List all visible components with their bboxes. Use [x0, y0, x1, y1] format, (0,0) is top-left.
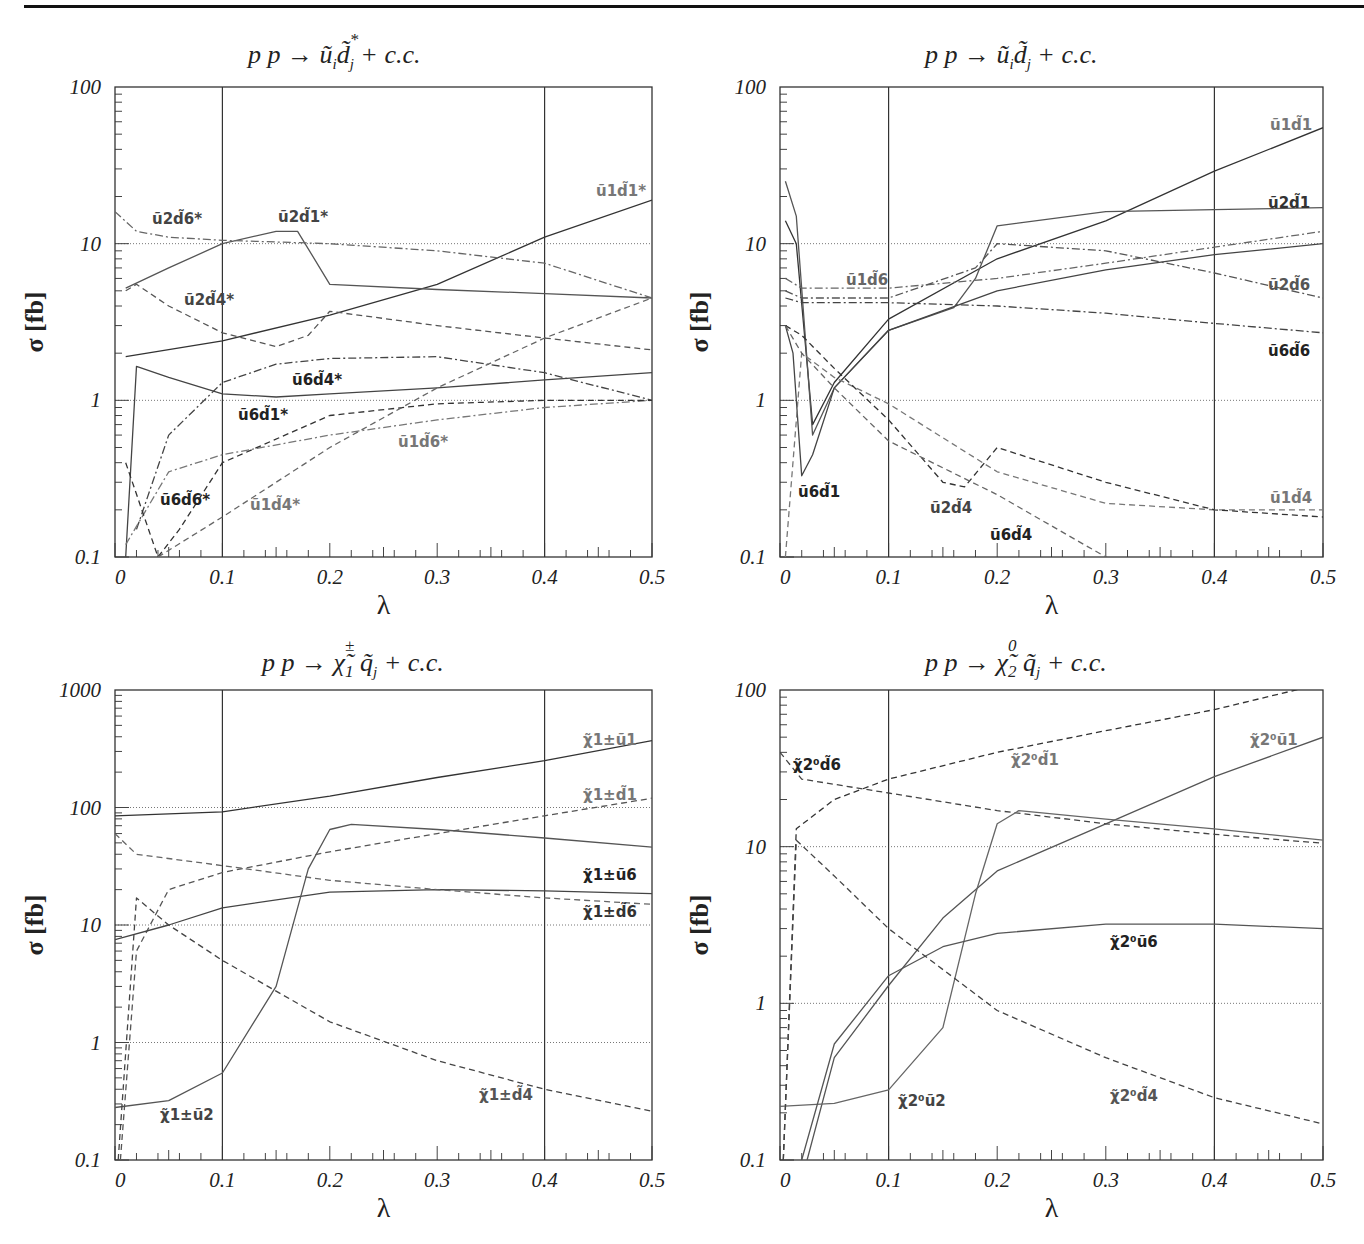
curve-label: ũ1d̃1 [1270, 115, 1312, 134]
curve-label: ũ1d̃4 [1270, 488, 1312, 507]
y-tick-label: 10 [80, 232, 102, 256]
x-tick-label: 0.2 [317, 565, 344, 589]
y-axis-label: σ [fb] [685, 291, 714, 352]
x-tick-label: 0.1 [875, 1168, 901, 1192]
series-line [126, 400, 652, 544]
x-tick-label: 0.4 [1201, 1168, 1228, 1192]
chart-canvas: 00.10.20.30.40.50.1110100λσ [fb]ũ2d̃6*ũ2… [0, 0, 1364, 1244]
curve-label: ũ1d̃1* [596, 181, 646, 200]
x-tick-label: 0 [780, 565, 791, 589]
curve-label: χ̃1±d̃4 [479, 1085, 533, 1104]
curve-label: ũ1d̃6* [398, 432, 448, 451]
curve-label: χ̃2⁰d̃6 [793, 755, 841, 774]
x-tick-label: 0.2 [317, 1168, 344, 1192]
curve-label: ũ2d̃1 [1268, 193, 1310, 212]
curve-label: ũ6d̃1* [238, 405, 288, 424]
y-tick-label: 1 [756, 991, 767, 1015]
curve-label: ũ2d̃6* [152, 209, 202, 228]
curve-label: χ̃2⁰ũ1 [1250, 731, 1298, 749]
curve-label: χ̃1±ũ6 [583, 866, 637, 884]
curve-label: ũ6d̃6* [160, 490, 210, 509]
curve-label: χ̃1±d̃1 [583, 785, 637, 804]
x-tick-label: 0.5 [639, 565, 665, 589]
x-tick-label: 0.1 [209, 1168, 235, 1192]
x-tick-label: 0.4 [531, 1168, 558, 1192]
y-tick-label: 100 [70, 75, 102, 99]
curve-label: χ̃1±d̃6 [583, 902, 637, 921]
series-line [126, 200, 652, 357]
y-tick-label: 0.1 [75, 545, 101, 569]
x-tick-label: 0.5 [1310, 1168, 1336, 1192]
x-tick-label: 0.4 [1201, 565, 1228, 589]
x-axis-label: λ [377, 589, 391, 620]
x-tick-label: 0.5 [639, 1168, 665, 1192]
chart-panel-tl: 00.10.20.30.40.50.1110100λσ [fb]ũ2d̃6*ũ2… [20, 75, 665, 620]
y-tick-label: 1 [91, 1031, 102, 1055]
y-tick-label: 1000 [59, 678, 102, 702]
y-tick-label: 1 [756, 388, 767, 412]
series-line [126, 400, 652, 557]
series-line [126, 231, 652, 298]
curve-label: ũ2d̃4* [184, 290, 234, 309]
y-tick-label: 10 [745, 835, 767, 859]
y-tick-label: 100 [735, 75, 767, 99]
series-line [785, 353, 1323, 557]
x-axis-label: λ [1045, 1192, 1059, 1223]
curve-label: χ̃1±ũ2 [160, 1106, 214, 1124]
y-tick-label: 0.1 [75, 1148, 101, 1172]
curve-label: ũ1d̃6 [846, 270, 888, 289]
curve-label: ũ6d̃4 [990, 525, 1032, 544]
x-tick-label: 0.1 [875, 565, 901, 589]
x-axis-label: λ [1045, 589, 1059, 620]
curve-label: ũ6d̃4* [292, 370, 342, 389]
chart-panel-bl: 00.10.20.30.40.50.11101001000λσ [fb]χ̃1±… [20, 678, 665, 1223]
curve-label: χ̃2⁰d̃1 [1011, 750, 1059, 769]
curve-label: ũ1d̃4* [250, 495, 300, 514]
curve-label: χ̃1±ũ1 [583, 731, 637, 749]
series-line [807, 737, 1323, 1160]
curve-label: ũ2d̃1* [278, 207, 328, 226]
x-tick-label: 0.3 [1093, 565, 1119, 589]
x-tick-label: 0.2 [984, 1168, 1011, 1192]
plot-frame [115, 87, 652, 557]
series-line [785, 181, 1323, 435]
y-tick-label: 100 [735, 678, 767, 702]
y-tick-label: 0.1 [740, 545, 766, 569]
x-tick-label: 0 [780, 1168, 791, 1192]
y-tick-label: 1 [91, 388, 102, 412]
y-axis-label: σ [fb] [20, 291, 49, 352]
curve-label: χ̃2⁰ũ6 [1110, 933, 1158, 951]
y-tick-label: 100 [70, 796, 102, 820]
x-tick-label: 0.1 [209, 565, 235, 589]
x-tick-label: 0.2 [984, 565, 1011, 589]
curve-label: ũ2d̃4 [930, 498, 972, 517]
series-line [785, 326, 1323, 605]
x-tick-label: 0 [115, 565, 126, 589]
series-line [137, 357, 653, 530]
series-line [785, 298, 1323, 333]
x-tick-label: 0.5 [1310, 565, 1336, 589]
series-line [158, 298, 652, 557]
plot-frame [780, 87, 1323, 557]
chart-panel-tr: 00.10.20.30.40.50.1110100λσ [fb]ũ1d̃1ũ2d… [685, 75, 1336, 620]
y-axis-label: σ [fb] [20, 894, 49, 955]
y-tick-label: 0.1 [740, 1148, 766, 1172]
series-line [115, 890, 652, 940]
x-tick-label: 0.3 [424, 1168, 450, 1192]
y-axis-label: σ [fb] [685, 894, 714, 955]
y-tick-label: 10 [745, 232, 767, 256]
series-line [780, 811, 1323, 1107]
y-tick-label: 10 [80, 913, 102, 937]
x-tick-label: 0.4 [531, 565, 558, 589]
series-line [115, 834, 652, 905]
chart-panel-br: 00.10.20.30.40.50.1110100λσ [fb]χ̃2⁰d̃1χ… [685, 678, 1336, 1223]
curve-label: ũ2d̃6 [1268, 275, 1310, 294]
curve-label: χ̃2⁰d̃4 [1110, 1086, 1158, 1105]
x-axis-label: λ [377, 1192, 391, 1223]
series-line [115, 741, 652, 816]
series-line [783, 840, 1323, 1160]
curve-label: ũ6d̃1 [798, 482, 840, 501]
x-tick-label: 0.3 [1093, 1168, 1119, 1192]
curve-label: ũ6d̃6 [1268, 341, 1310, 360]
x-tick-label: 0.3 [424, 565, 450, 589]
